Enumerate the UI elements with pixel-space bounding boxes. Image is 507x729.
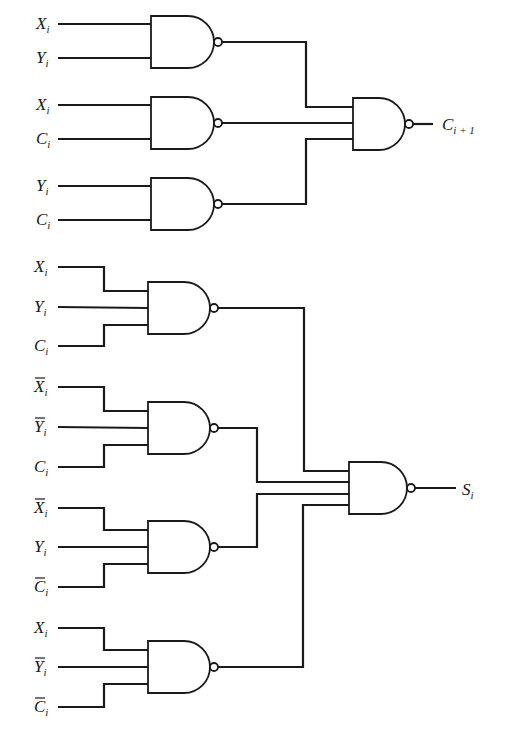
- nand-c2: [151, 97, 222, 149]
- nand-s2: [148, 402, 218, 454]
- nand-gate-body: [148, 402, 210, 454]
- inversion-bubble-icon: [214, 38, 222, 46]
- inversion-bubble-icon: [405, 120, 413, 128]
- input-label-x: Xi: [35, 14, 49, 35]
- nand-c1: [151, 16, 222, 68]
- inversion-bubble-icon: [210, 304, 218, 312]
- input-label-c: Ci: [34, 577, 48, 598]
- nand-gate-body: [148, 521, 210, 573]
- wire-s4: [218, 505, 349, 667]
- input-label-y: Yi: [34, 537, 47, 558]
- input-label-x: Xi: [33, 377, 47, 398]
- input-label-y: Yi: [34, 657, 47, 678]
- nand-gate-body: [151, 97, 214, 149]
- input-wire: [58, 307, 148, 308]
- nand-gate-body: [148, 282, 210, 334]
- nand-carry-out: [353, 98, 413, 150]
- output-label-carry: Ci + 1: [442, 115, 475, 136]
- input-label-y: Yi: [34, 297, 47, 318]
- nand-s3: [148, 521, 218, 573]
- input-label-x: Xi: [35, 95, 49, 116]
- inversion-bubble-icon: [214, 119, 222, 127]
- input-wire: [58, 508, 148, 530]
- nand-gate-body: [349, 462, 407, 514]
- input-label-c: Ci: [34, 336, 48, 357]
- nand-gate-body: [353, 98, 405, 150]
- input-label-y: Yi: [34, 417, 47, 438]
- input-label-x: Xi: [33, 257, 47, 278]
- input-label-c: Ci: [36, 129, 50, 150]
- input-label-x: Xi: [33, 618, 47, 639]
- wire-c3: [222, 139, 353, 204]
- nand-s4: [148, 641, 218, 693]
- inversion-bubble-icon: [407, 484, 415, 492]
- input-label-y: Yi: [36, 176, 49, 197]
- inversion-bubble-icon: [210, 543, 218, 551]
- output-label-sum: Si: [462, 480, 474, 501]
- nand-gate-body: [151, 178, 214, 230]
- input-wire: [58, 325, 148, 346]
- input-label-c: Ci: [36, 210, 50, 231]
- logic-circuit-diagram: XiYiXiCiYiCiCi + 1XiYiCiXiYiCiXiYiCiXiYi…: [0, 0, 507, 729]
- input-wire: [58, 684, 148, 707]
- input-label-x: Xi: [33, 498, 47, 519]
- input-wire: [58, 427, 148, 428]
- nand-s1: [148, 282, 218, 334]
- nand-sum-out: [349, 462, 415, 514]
- input-wire: [58, 564, 148, 587]
- input-label-c: Ci: [34, 457, 48, 478]
- nand-c3: [151, 178, 222, 230]
- wire-s3: [218, 494, 349, 547]
- wire-s1: [218, 308, 349, 471]
- wire-s2: [218, 428, 349, 482]
- inversion-bubble-icon: [210, 424, 218, 432]
- input-wire: [58, 445, 148, 467]
- inversion-bubble-icon: [214, 200, 222, 208]
- input-wire: [58, 628, 148, 650]
- input-wire: [58, 387, 148, 411]
- input-wire: [58, 267, 148, 291]
- input-label-y: Yi: [36, 48, 49, 69]
- wire-c1: [222, 42, 353, 107]
- nand-gate-body: [151, 16, 214, 68]
- input-label-c: Ci: [34, 697, 48, 718]
- inversion-bubble-icon: [210, 663, 218, 671]
- nand-gate-body: [148, 641, 210, 693]
